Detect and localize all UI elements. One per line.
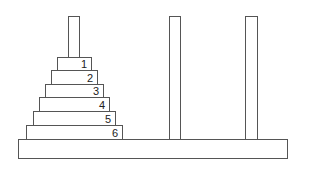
disk-label: 4: [99, 99, 105, 111]
disk-label: 2: [87, 72, 93, 84]
disk-3: 3: [45, 84, 104, 98]
peg-3: [245, 16, 258, 140]
peg-1: [68, 16, 80, 58]
base-platform: [18, 139, 288, 159]
disk-label: 1: [81, 58, 87, 70]
disk-1: 1: [57, 57, 92, 71]
disk-label: 6: [112, 127, 118, 139]
disk-label: 5: [105, 113, 111, 125]
peg-2: [169, 16, 181, 140]
disk-label: 3: [93, 85, 99, 97]
disk-4: 4: [39, 97, 110, 112]
disk-2: 2: [51, 70, 98, 85]
disk-5: 5: [33, 111, 116, 126]
disk-6: 6: [26, 125, 123, 140]
